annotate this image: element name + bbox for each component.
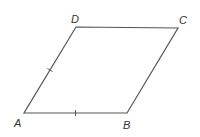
parallelogram-diagram: A B C D [0, 0, 200, 137]
vertex-label-c: C [179, 14, 187, 26]
tick-marks [47, 68, 75, 116]
vertex-label-a: A [13, 117, 21, 129]
vertex-label-b: B [123, 119, 130, 131]
vertex-label-d: D [71, 13, 79, 25]
parallelogram-abcd [24, 27, 178, 113]
